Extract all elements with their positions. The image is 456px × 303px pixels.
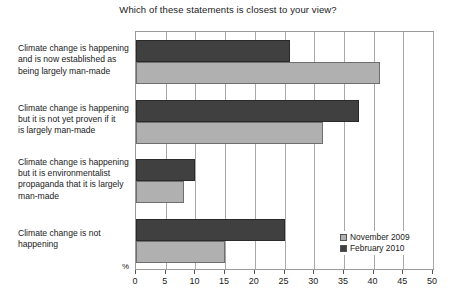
category-label-line: Climate change is happening: [18, 43, 135, 54]
x-axis-tick-label: 20: [249, 276, 259, 286]
legend: November 2009 February 2010: [338, 231, 412, 255]
bar-november-2009: [136, 241, 225, 263]
bar-february-2010: [136, 100, 359, 122]
x-axis-tick-label: 30: [308, 276, 318, 286]
x-axis-tick-label: 25: [278, 276, 288, 286]
x-axis-tick-label: 0: [132, 276, 137, 286]
x-axis-tick-label: 35: [338, 276, 348, 286]
bar-november-2009: [136, 62, 380, 84]
legend-label-february-2010: February 2010: [350, 243, 404, 254]
x-axis-tick-mark: [313, 270, 314, 274]
bar-february-2010: [136, 159, 195, 181]
category-label-line: Climate change is happening: [18, 157, 135, 168]
bar-chart: Which of these statements is closest to …: [0, 0, 456, 303]
x-axis-tick-label: 50: [427, 276, 437, 286]
category-label-line: Climate change is not: [18, 228, 135, 239]
category-label-line: Climate change is happening: [18, 103, 135, 114]
legend-label-november-2009: November 2009: [350, 232, 410, 243]
x-axis-tick-mark: [343, 270, 344, 274]
category-label-line: is largely man-made: [18, 125, 135, 136]
gridline: [433, 32, 434, 269]
bar-group: [136, 40, 433, 84]
category-label-line: but it is environmentalist: [18, 168, 135, 179]
bar-november-2009: [136, 122, 323, 144]
x-axis-tick-label: 5: [162, 276, 167, 286]
category-label-group: Climate change is happeningand is now es…: [0, 31, 133, 270]
x-axis-tick-label: 45: [397, 276, 407, 286]
category-label-line: and is now established as: [18, 54, 135, 65]
bar-group: [136, 100, 433, 144]
category-label: Climate change is nothappening: [18, 228, 135, 251]
category-label: Climate change is happeningbut it is not…: [18, 103, 135, 137]
category-label-line: propaganda that it is largely: [18, 179, 135, 190]
x-axis-tick-mark: [165, 270, 166, 274]
x-axis-tick-mark: [135, 270, 136, 274]
category-label-line: being largely man-made: [18, 66, 135, 77]
x-axis-tick-mark: [373, 270, 374, 274]
x-axis-tick-mark: [194, 270, 195, 274]
x-axis-tick-label: 10: [189, 276, 199, 286]
x-axis-tick-mark: [402, 270, 403, 274]
category-label-line: but it is not yet proven if it: [18, 114, 135, 125]
bar-february-2010: [136, 219, 285, 241]
category-label-line: happening: [18, 239, 135, 250]
bar-february-2010: [136, 40, 290, 62]
category-label: Climate change is happeningand is now es…: [18, 43, 135, 77]
legend-swatch-icon-february-2010: [340, 245, 347, 252]
chart-title: Which of these statements is closest to …: [0, 4, 456, 15]
x-axis: 05101520253035404550: [135, 270, 434, 296]
x-axis-tick-mark: [284, 270, 285, 274]
legend-item-february-2010: February 2010: [340, 243, 410, 254]
bar-november-2009: [136, 181, 184, 203]
x-axis-unit-label: %: [122, 262, 129, 271]
category-label-line: man-made: [18, 191, 135, 202]
x-axis-tick-mark: [224, 270, 225, 274]
x-axis-tick-label: 15: [219, 276, 229, 286]
x-axis-tick-mark: [254, 270, 255, 274]
legend-item-november-2009: November 2009: [340, 232, 410, 243]
bar-group: [136, 159, 433, 203]
x-axis-tick-label: 40: [368, 276, 378, 286]
x-axis-tick-mark: [432, 270, 433, 274]
legend-swatch-icon-november-2009: [340, 234, 347, 241]
category-label: Climate change is happeningbut it is env…: [18, 157, 135, 203]
